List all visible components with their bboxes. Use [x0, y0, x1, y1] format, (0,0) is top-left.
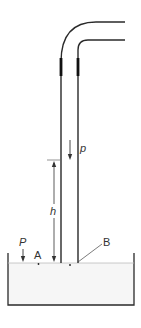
label-P: P	[19, 236, 27, 248]
tube-outer-wall	[61, 22, 125, 263]
point-b-dot	[69, 264, 71, 266]
point-b-leader	[78, 244, 102, 262]
label-A: A	[34, 249, 42, 261]
diagram-canvas: p h P A B	[0, 0, 141, 328]
flow-arrow-icon	[68, 140, 72, 160]
point-a-dot	[38, 263, 40, 265]
liquid-body	[8, 263, 134, 305]
label-B: B	[103, 236, 110, 248]
pressure-arrow-icon	[21, 249, 25, 262]
sleeve-right	[77, 58, 80, 76]
sleeve-left	[60, 58, 63, 76]
label-h: h	[50, 205, 56, 217]
label-p: p	[79, 142, 86, 154]
